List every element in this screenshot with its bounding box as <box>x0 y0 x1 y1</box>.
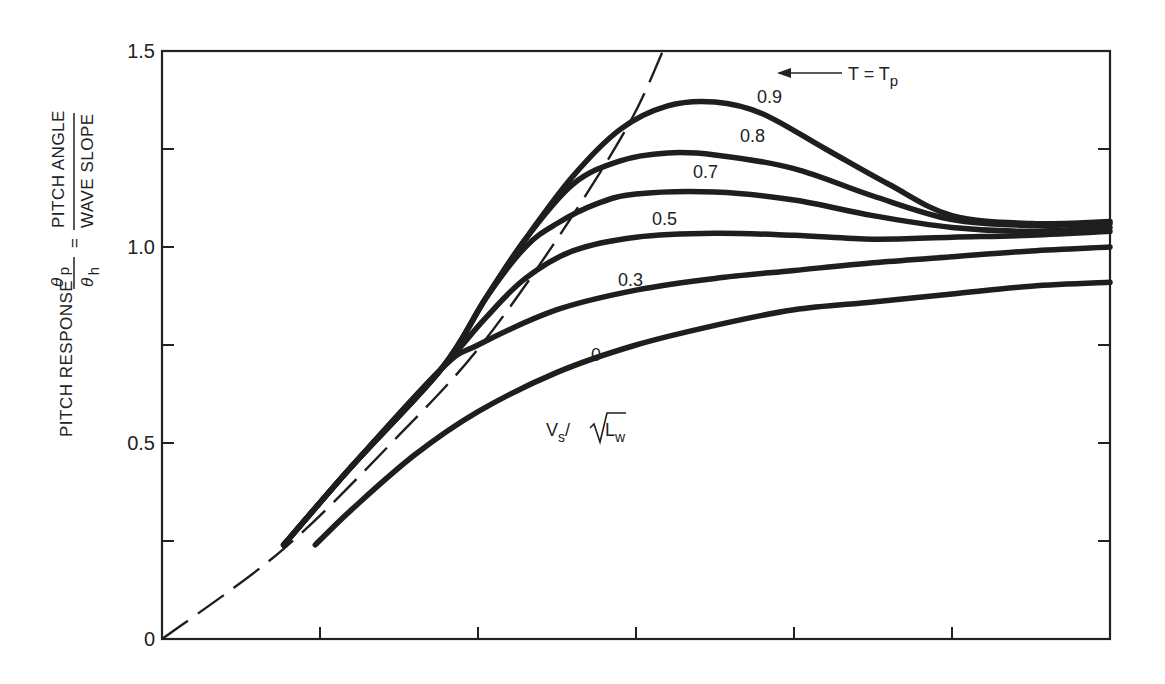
arrow-head-icon <box>777 68 791 78</box>
y-tick-labels: 00.51.01.5 <box>127 40 155 650</box>
curve-label: 0.5 <box>652 209 677 229</box>
tp-label: T = Tp <box>848 64 898 89</box>
data-series <box>162 51 1110 639</box>
curve-label: 0.3 <box>618 270 643 290</box>
y-tick-label: 1.0 <box>127 236 155 258</box>
theta-h-symbol: θh <box>78 266 102 287</box>
curve-label: 0.9 <box>757 87 782 107</box>
y-axis-prefix: PITCH RESPONSE <box>57 280 76 437</box>
tp-annotation: T = Tp <box>777 64 898 89</box>
equals-sign: = <box>65 238 84 248</box>
series-curve-0-7 <box>284 192 1110 545</box>
y-axis-title: PITCH RESPONSE θp θh = PITCH ANGLE WAVE … <box>48 110 102 437</box>
series-curve-0-8 <box>284 152 1110 545</box>
y-tick-label: 0.5 <box>127 432 155 454</box>
vs-sqrt-lw-label: Vs/ <box>546 420 570 445</box>
tp-dashed-line <box>162 51 663 639</box>
curve-label: 0.7 <box>693 162 718 182</box>
curve-label: 0.8 <box>740 126 765 146</box>
pitch-response-chart: 00.51.01.5 PITCH RESPONSE θp θh = PITCH … <box>0 0 1165 684</box>
curve-label: 0 <box>591 345 601 365</box>
series-curve-0 <box>315 282 1110 545</box>
y-axis-denominator: WAVE SLOPE <box>78 113 97 228</box>
y-tick-label: 0 <box>144 628 155 650</box>
y-tick-label: 1.5 <box>127 40 155 62</box>
lw-label: Lw <box>605 420 626 445</box>
y-axis-numerator: PITCH ANGLE <box>49 110 68 228</box>
legend-title: Vs/ Lw <box>546 413 626 445</box>
